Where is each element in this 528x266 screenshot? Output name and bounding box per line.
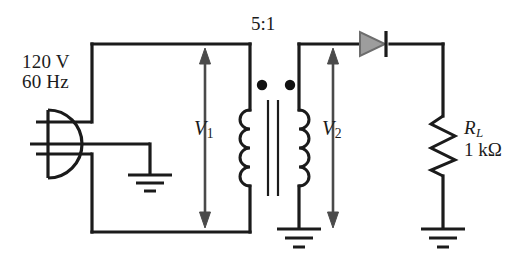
- ac-plug-source-symbol: [30, 110, 150, 178]
- diode-symbol: [360, 31, 386, 57]
- secondary-voltage-label: V2: [322, 118, 342, 142]
- load-resistor-label: RL 1 kΩ: [464, 118, 502, 160]
- primary-voltage-subscript: 1: [206, 126, 213, 141]
- source-voltage-label: 120 V: [22, 52, 70, 72]
- source-label: 120 V 60 Hz: [22, 52, 70, 92]
- secondary-coil-path: [299, 110, 309, 186]
- polarity-dot-secondary: [285, 80, 295, 90]
- secondary-circuit-wires: [299, 44, 443, 228]
- turns-ratio-label: 5:1: [251, 14, 275, 34]
- v1-arrowhead-down: [200, 212, 211, 228]
- ground-secondary-symbol: [277, 229, 321, 247]
- load-resistor-name: RL: [464, 118, 502, 140]
- v2-arrowhead-down: [328, 212, 339, 228]
- v1-arrowhead-up: [200, 48, 211, 64]
- load-resistor-subscript: L: [476, 125, 484, 140]
- primary-voltage-symbol: V: [194, 117, 206, 139]
- transformer-primary-winding: [240, 110, 250, 186]
- circuit-schematic-svg: [0, 0, 528, 266]
- primary-coil-path: [240, 110, 250, 186]
- secondary-voltage-symbol: V: [322, 117, 334, 139]
- source-frequency-label: 60 Hz: [22, 72, 70, 92]
- ground-load-symbol: [421, 229, 465, 247]
- load-resistor-value: 1 kΩ: [464, 140, 502, 160]
- primary-voltage-label: V1: [194, 118, 214, 142]
- primary-circuit-wires: [92, 44, 250, 232]
- load-resistor-symbol-text: R: [464, 117, 476, 138]
- circuit-diagram-figure: 120 V 60 Hz 5:1 V1 V2 RL 1 kΩ: [0, 0, 528, 266]
- diode-anode-triangle: [360, 32, 385, 56]
- resistor-zigzag-path: [431, 116, 455, 176]
- polarity-dot-primary: [257, 80, 267, 90]
- ground-source-symbol: [128, 175, 172, 191]
- transformer-secondary-winding: [299, 110, 309, 186]
- v2-arrowhead-up: [328, 48, 339, 64]
- transformer-core: [268, 100, 278, 196]
- secondary-voltage-subscript: 2: [334, 126, 341, 141]
- load-resistor-symbol: [431, 116, 455, 176]
- transformer-polarity-dots: [257, 80, 295, 90]
